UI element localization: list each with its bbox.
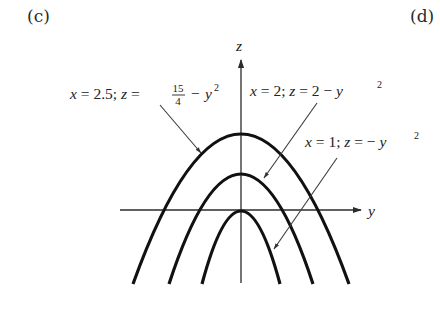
label-x-2.5: x = 2.5; z = 15 4 − y 2	[69, 82, 219, 107]
svg-text:x = 2.5; z =: x = 2.5; z =	[69, 85, 140, 102]
svg-text:−: −	[191, 85, 200, 102]
svg-text:y: y	[203, 85, 212, 102]
label-x-2: x = 2; z = 2 − y 2	[249, 79, 382, 99]
svg-text:2: 2	[377, 79, 382, 90]
fraction-numerator: 15	[173, 82, 185, 94]
svg-text:2: 2	[214, 82, 219, 93]
svg-text:x = 2; z = 2 − y: x = 2; z = 2 − y	[249, 82, 343, 99]
label-x-1: x = 1; z = − y 2	[304, 130, 419, 150]
z-axis-label: z	[235, 37, 242, 54]
fraction-denominator: 4	[175, 95, 181, 107]
level-curves-diagram: z y x = 2.5; z = 15 4 − y 2 x = 2; z = 2…	[0, 0, 440, 332]
pointer-x-2.5	[160, 105, 201, 153]
y-axis-label: y	[366, 202, 375, 219]
svg-text:2: 2	[414, 130, 419, 141]
svg-text:x = 1; z = − y: x = 1; z = − y	[304, 133, 386, 150]
pointer-x-1	[274, 158, 337, 249]
